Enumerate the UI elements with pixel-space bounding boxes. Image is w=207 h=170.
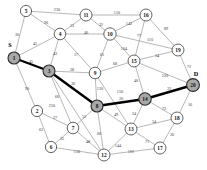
graph-node-label-11: 11 bbox=[83, 12, 88, 18]
graph-node-label-8: 8 bbox=[96, 103, 99, 109]
edge-weight-label-3-9: 28 bbox=[70, 67, 74, 72]
source-marker: S bbox=[8, 41, 12, 48]
graph-canvas: 2309030150133240454317142110104618977147… bbox=[0, 0, 207, 170]
graph-node-label-4: 4 bbox=[59, 31, 62, 37]
edge-weight-label-10-15: 104 bbox=[121, 46, 128, 51]
edge-weight-label-14-20: 22 bbox=[167, 86, 171, 91]
graph-node-label-1: 1 bbox=[13, 55, 16, 61]
shortest-path-graph-figure: 2309030150133240454317142110104618977147… bbox=[0, 0, 207, 170]
graph-node-label-19: 19 bbox=[175, 47, 181, 53]
graph-node-label-2: 2 bbox=[36, 108, 39, 114]
edge-weight-label-3-12: 250 bbox=[49, 103, 55, 108]
graph-node-label-10: 10 bbox=[107, 31, 113, 37]
edge-weight-label-16-19: 89 bbox=[164, 26, 168, 31]
edge-weight-label-14-18: 72 bbox=[162, 106, 166, 111]
edge-weight-label-13-17: 71 bbox=[145, 139, 149, 144]
edge-weight-label-17-12: 101 bbox=[128, 149, 134, 154]
edge-weight-label-15-9: 68 bbox=[113, 61, 117, 66]
edge-weight-label-13-12: 144 bbox=[115, 143, 122, 148]
edge-weight-label-15-20: 220 bbox=[162, 73, 168, 78]
edge-weight-label-4-3: 43 bbox=[53, 51, 57, 56]
edge-weight-label-10-9: 61 bbox=[100, 52, 104, 57]
edge-weight-label-14-13: 24 bbox=[132, 111, 137, 116]
graph-node-label-13: 13 bbox=[128, 126, 134, 132]
edge-weight-label-4-10: 40 bbox=[84, 30, 88, 35]
destination-marker: D bbox=[194, 70, 199, 77]
edge-weight-label-1-2: 90 bbox=[25, 86, 29, 91]
graph-node-label-15: 15 bbox=[131, 58, 137, 64]
graph-node-label-14: 14 bbox=[142, 96, 148, 102]
graph-node-label-6: 6 bbox=[50, 144, 53, 150]
graph-node-label-20: 20 bbox=[190, 82, 196, 88]
edge-weight-label-4-1: 45 bbox=[33, 41, 37, 46]
edge-weight-label-19-15: 14 bbox=[155, 53, 160, 58]
graph-node-label-5: 5 bbox=[25, 8, 28, 14]
edge-weight-label-7-2: 27 bbox=[53, 115, 57, 120]
edge-weight-label-18-17: 26 bbox=[170, 132, 174, 137]
edge-weight-label-6-12: 156 bbox=[74, 149, 80, 154]
edge-weight-label-11-4: 13 bbox=[70, 23, 74, 28]
edge-weight-label-8-13: 49 bbox=[114, 112, 118, 117]
edge-weight-label-7-12: 48 bbox=[86, 139, 90, 144]
graph-node-label-9: 9 bbox=[94, 70, 97, 76]
edge-weight-label-9-8: 120 bbox=[97, 86, 103, 91]
edge-weight-label-7-6: 35 bbox=[60, 136, 64, 141]
edge-weight-label-1-3: 45 bbox=[29, 59, 33, 64]
edge-weight-label-19-20: 72 bbox=[187, 64, 191, 69]
edge-weight-label-10-19: 110 bbox=[147, 37, 153, 42]
graph-node-label-17: 17 bbox=[157, 145, 163, 151]
edge-weight-label-5-4: 90 bbox=[44, 20, 48, 25]
edge-weight-label-2-6: 62 bbox=[39, 127, 43, 132]
edge-weight-label-3-8: 36 bbox=[71, 81, 75, 86]
edge-weight-label-16-15: 77 bbox=[137, 33, 141, 38]
edge-weight-label-11-16: 150 bbox=[114, 10, 120, 15]
edge-weight-label-10-16: 142 bbox=[126, 21, 132, 26]
edge-weight-label-11-10: 32 bbox=[99, 22, 103, 27]
edge-weight-label-8-14: 20 bbox=[119, 96, 123, 101]
edge-weight-label-15-14: 40 bbox=[134, 78, 138, 83]
edge-weight-label-5-11: 230 bbox=[54, 7, 60, 12]
edge-weight-label-8-12: 60 bbox=[97, 131, 101, 136]
edge-weight-label-5-1: 30 bbox=[15, 32, 19, 37]
edge-weight-label-9-13: 150 bbox=[117, 89, 123, 94]
edge-weight-label-20-18: 16 bbox=[188, 102, 192, 107]
graph-node-label-3: 3 bbox=[48, 68, 51, 74]
graph-edge-16-19 bbox=[146, 15, 178, 50]
graph-node-label-16: 16 bbox=[143, 12, 149, 18]
edges-layer bbox=[14, 11, 193, 155]
graph-node-label-12: 12 bbox=[101, 152, 107, 158]
edge-weight-label-3-7: 60 bbox=[55, 94, 59, 99]
graph-edge-16-15 bbox=[134, 15, 146, 61]
edge-weight-label-4-9: 17 bbox=[74, 52, 78, 57]
graph-node-label-18: 18 bbox=[174, 115, 180, 121]
graph-node-label-7: 7 bbox=[72, 125, 75, 131]
edge-weight-label-8-7: 52 bbox=[82, 114, 86, 119]
